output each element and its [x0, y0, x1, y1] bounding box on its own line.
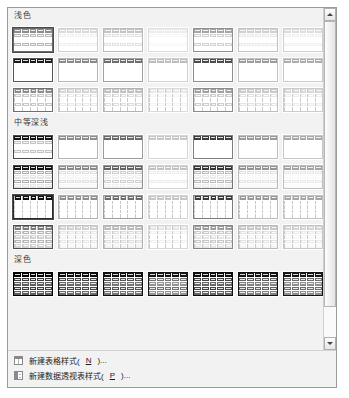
table-style-swatch[interactable]	[147, 194, 189, 220]
swatch-cell	[45, 226, 52, 230]
table-style-swatch[interactable]	[192, 27, 234, 53]
table-style-swatch[interactable]	[282, 224, 323, 250]
table-style-swatch[interactable]	[57, 57, 99, 83]
table-style-swatch[interactable]	[147, 134, 189, 160]
swatch-cell	[104, 89, 111, 93]
table-style-swatch[interactable]	[192, 87, 234, 113]
table-style-swatch[interactable]	[57, 194, 99, 220]
table-style-swatch[interactable]	[12, 27, 54, 53]
table-style-swatch[interactable]	[237, 57, 279, 83]
section-heading-dark: 深色	[8, 252, 323, 269]
table-style-swatch[interactable]	[237, 87, 279, 113]
swatch-cell	[165, 64, 172, 68]
table-style-swatch[interactable]	[12, 194, 54, 220]
table-style-swatch[interactable]	[147, 164, 189, 190]
swatch-cell	[112, 103, 119, 107]
swatch-cell	[202, 210, 209, 214]
table-style-swatch[interactable]	[192, 271, 234, 297]
table-style-swatch[interactable]	[102, 164, 144, 190]
scroll-down-arrow-button[interactable]	[324, 337, 336, 350]
swatch-cell	[59, 180, 66, 184]
swatch-cell	[255, 77, 262, 81]
table-style-swatch[interactable]	[147, 224, 189, 250]
table-style-swatch[interactable]	[147, 87, 189, 113]
gallery-scrollbar[interactable]	[323, 8, 336, 350]
swatch-cell	[292, 282, 299, 286]
table-style-swatch[interactable]	[192, 57, 234, 83]
table-style-swatch[interactable]	[237, 134, 279, 160]
swatch-cell	[59, 231, 66, 235]
scrollbar-thumb[interactable]	[324, 21, 336, 307]
table-style-swatch[interactable]	[237, 194, 279, 220]
table-style-swatch[interactable]	[282, 87, 323, 113]
swatch-body-row	[59, 240, 97, 244]
gallery-scroll-area[interactable]: 浅色中等深浅深色	[8, 8, 323, 350]
table-style-swatch[interactable]	[102, 87, 144, 113]
table-style-swatch[interactable]	[192, 194, 234, 220]
swatch-cell	[284, 34, 291, 38]
swatch-body-row	[104, 205, 142, 209]
swatch-cell	[262, 136, 269, 140]
table-style-swatch[interactable]	[12, 271, 54, 297]
table-style-swatch[interactable]	[282, 194, 323, 220]
swatch-cell	[225, 34, 232, 38]
swatch-cell	[82, 166, 89, 170]
swatch-cell	[82, 196, 89, 200]
table-style-swatch[interactable]	[282, 27, 323, 53]
table-style-swatch[interactable]	[237, 27, 279, 53]
table-style-swatch[interactable]	[237, 271, 279, 297]
table-style-swatch[interactable]	[237, 224, 279, 250]
table-style-swatch[interactable]	[282, 134, 323, 160]
table-style-swatch[interactable]	[192, 134, 234, 160]
table-style-swatch[interactable]	[237, 164, 279, 190]
table-style-swatch[interactable]	[192, 224, 234, 250]
scroll-up-arrow-button[interactable]	[324, 8, 336, 21]
swatch-cell	[82, 68, 89, 72]
table-style-swatch[interactable]	[12, 164, 54, 190]
table-style-swatch[interactable]	[192, 164, 234, 190]
table-style-swatch[interactable]	[147, 27, 189, 53]
swatch-cell	[75, 287, 82, 291]
swatch-cell	[90, 205, 97, 209]
swatch-cell	[284, 201, 291, 205]
table-style-swatch[interactable]	[282, 57, 323, 83]
table-style-swatch[interactable]	[102, 57, 144, 83]
table-style-swatch[interactable]	[12, 224, 54, 250]
scrollbar-track[interactable]	[324, 21, 336, 337]
table-style-swatch[interactable]	[57, 164, 99, 190]
swatch-cell	[225, 231, 232, 235]
swatch-cell	[135, 235, 142, 239]
swatch-body-row	[194, 38, 232, 42]
swatch-body-row	[194, 231, 232, 235]
swatch-cell	[112, 98, 119, 102]
table-style-swatch[interactable]	[147, 57, 189, 83]
swatch-cell	[202, 291, 209, 295]
swatch-cell	[37, 226, 44, 230]
table-style-swatch[interactable]	[57, 87, 99, 113]
table-style-swatch[interactable]	[12, 57, 54, 83]
table-style-swatch[interactable]	[57, 224, 99, 250]
swatch-cell	[120, 235, 127, 239]
table-style-swatch[interactable]	[147, 271, 189, 297]
swatch-cell	[14, 136, 21, 140]
swatch-cell	[90, 150, 97, 154]
table-style-swatch[interactable]	[282, 271, 323, 297]
table-style-swatch[interactable]	[102, 194, 144, 220]
table-style-swatch[interactable]	[57, 134, 99, 160]
swatch-cell	[225, 47, 232, 51]
table-style-swatch[interactable]	[57, 271, 99, 297]
table-style-swatch[interactable]	[12, 87, 54, 113]
command-table-style[interactable]: 新建表格样式(N)...	[8, 353, 336, 368]
swatch-cell	[315, 47, 322, 51]
table-style-swatch[interactable]	[102, 27, 144, 53]
table-style-swatch[interactable]	[102, 134, 144, 160]
table-style-swatch[interactable]	[102, 224, 144, 250]
table-style-swatch[interactable]	[102, 271, 144, 297]
table-style-swatch[interactable]	[282, 164, 323, 190]
swatch-cell	[172, 145, 179, 149]
table-style-swatch[interactable]	[57, 27, 99, 53]
swatch-body-row	[149, 73, 187, 77]
command-pivot-style[interactable]: 新建数据透视表样式(P)...	[8, 368, 336, 383]
swatch-body-row	[14, 38, 52, 42]
table-style-swatch[interactable]	[12, 134, 54, 160]
